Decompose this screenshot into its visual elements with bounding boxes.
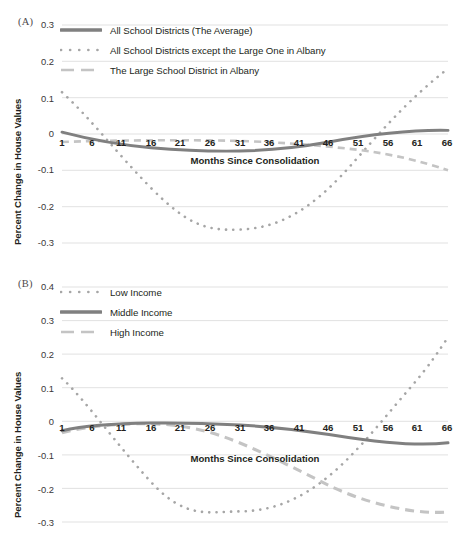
panel-b-xtick-1: 1: [52, 422, 72, 433]
panel-a-xtick-51: 51: [348, 137, 368, 148]
panel-b-x-axis-title: Months Since Consolidation: [125, 453, 385, 464]
panel-b-xtick-41: 41: [289, 422, 309, 433]
panel-b-series-high-income: [62, 424, 448, 513]
panel-b-xtick-56: 56: [378, 422, 398, 433]
panel-a-legend-item-except-albany[interactable]: All School Districts except the Large On…: [60, 40, 326, 60]
panel-a-ytick-3: 0: [28, 128, 54, 139]
dashed-line-swatch-icon: [60, 65, 102, 75]
panel-a-xtick-6: 6: [82, 137, 102, 148]
panel-a-xtick-41: 41: [289, 137, 309, 148]
panel-b-legend-label-high-income: High Income: [110, 327, 164, 338]
panel-b-legend-item-middle-income[interactable]: Middle Income: [60, 302, 172, 322]
figure-house-value-change: (A) Percent Change in House Values 0.3 0…: [0, 0, 461, 538]
panel-a-ytick-6: -0.3: [24, 237, 54, 248]
panel-a-ytick-2: 0.1: [28, 93, 54, 104]
panel-a-x-axis-title: Months Since Consolidation: [125, 155, 385, 166]
panel-b-ytick-0: 0.4: [28, 281, 54, 292]
panel-b-ytick-4: 0: [28, 416, 54, 427]
panel-a-xtick-11: 11: [111, 137, 131, 148]
solid-line-swatch-icon: [60, 307, 102, 317]
panel-b-legend-item-low-income[interactable]: Low Income: [60, 282, 172, 302]
panel-a-xtick-56: 56: [378, 137, 398, 148]
panel-b-ytick-5: -0.1: [24, 450, 54, 461]
panel-b-legend-label-middle-income: Middle Income: [110, 307, 172, 318]
panel-b-legend-item-high-income[interactable]: High Income: [60, 322, 172, 342]
panel-b-ytick-1: 0.3: [28, 315, 54, 326]
panel-a-ytick-4: -0.1: [24, 164, 54, 175]
panel-a-xtick-66: 66: [437, 137, 457, 148]
panel-a-xtick-46: 46: [318, 137, 338, 148]
solid-line-swatch-icon: [60, 25, 102, 35]
panel-a-legend-item-large-albany[interactable]: The Large School District in Albany: [60, 60, 326, 80]
panel-b-xtick-51: 51: [348, 422, 368, 433]
panel-a-xtick-1: 1: [52, 137, 72, 148]
panel-b-legend: Low Income Middle Income High Income: [60, 282, 172, 342]
panel-a-xtick-36: 36: [259, 137, 279, 148]
panel-b-xtick-6: 6: [82, 422, 102, 433]
panel-b-ytick-3: 0.1: [28, 383, 54, 394]
panel-b-xtick-21: 21: [170, 422, 190, 433]
panel-a-ytick-1: 0.2: [28, 56, 54, 67]
panel-a-legend-label-average: All School Districts (The Average): [110, 25, 252, 36]
panel-b-xtick-46: 46: [318, 422, 338, 433]
dotted-line-swatch-icon: [60, 45, 102, 55]
panel-b-legend-label-low-income: Low Income: [110, 287, 162, 298]
panel-b-y-axis-title: Percent Change in House Values: [12, 372, 23, 518]
panel-b-xtick-61: 61: [407, 422, 427, 433]
panel-a-legend: All School Districts (The Average) All S…: [60, 20, 326, 80]
panel-a: (A) Percent Change in House Values 0.3 0…: [0, 0, 461, 268]
panel-a-xtick-26: 26: [200, 137, 220, 148]
panel-a-xtick-21: 21: [170, 137, 190, 148]
panel-a-xtick-31: 31: [230, 137, 250, 148]
panel-a-ytick-5: -0.2: [24, 201, 54, 212]
panel-b-ytick-6: -0.2: [24, 484, 54, 495]
panel-a-legend-item-average[interactable]: All School Districts (The Average): [60, 20, 326, 40]
panel-a-legend-label-large-albany: The Large School District in Albany: [110, 65, 259, 76]
panel-a-xtick-61: 61: [407, 137, 427, 148]
panel-b-xtick-31: 31: [230, 422, 250, 433]
panel-b-xtick-36: 36: [259, 422, 279, 433]
panel-b-xtick-26: 26: [200, 422, 220, 433]
dashed-line-swatch-icon: [60, 327, 102, 337]
panel-a-y-axis-title: Percent Change in House Values: [12, 99, 23, 245]
panel-b-xtick-66: 66: [437, 422, 457, 433]
panel-b: (B) Percent Change in House Values 0.4 0…: [0, 268, 461, 538]
panel-a-ytick-0: 0.3: [28, 19, 54, 30]
panel-b-ytick-2: 0.2: [28, 349, 54, 360]
dotted-line-swatch-icon: [60, 287, 102, 297]
panel-a-xtick-16: 16: [141, 137, 161, 148]
panel-b-xtick-11: 11: [111, 422, 131, 433]
panel-b-ytick-7: -0.3: [24, 517, 54, 528]
panel-b-xtick-16: 16: [141, 422, 161, 433]
panel-a-legend-label-except-albany: All School Districts except the Large On…: [110, 45, 326, 56]
